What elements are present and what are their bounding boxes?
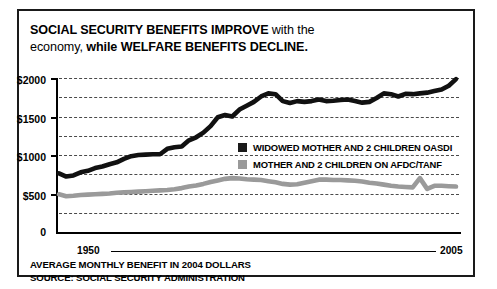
caption-line-2: SOURCE: SOCIAL SECURITY ADMINISTRATION	[30, 272, 251, 285]
y-tick-label-1500: $1500	[17, 113, 46, 125]
title-line-2-bold: while WELFARE BENEFITS DECLINE.	[83, 40, 308, 54]
legend-swatch-oasdi	[238, 143, 247, 152]
chart-frame: SOCIAL SECURITY BENEFITS IMPROVE with th…	[17, 9, 475, 277]
line-afdc-tanf	[59, 178, 456, 196]
title-line-2-regular: economy,	[30, 40, 83, 54]
caption-line-1: AVERAGE MONTHLY BENEFIT IN 2004 DOLLARS	[30, 259, 251, 272]
y-tick-label-500: $500	[23, 190, 46, 202]
y-tick-label-1000: $1000	[17, 151, 46, 163]
y-tick-label-2000: $2000	[17, 74, 46, 86]
title-line-2: economy, while WELFARE BENEFITS DECLINE.	[30, 39, 450, 56]
legend-label-oasdi: WIDOWED MOTHER AND 2 CHILDREN OASDI	[253, 142, 452, 153]
y-tick-label-0: 0	[40, 226, 46, 238]
legend-item-afdc: MOTHER AND 2 CHILDREN ON AFDC/TANF	[238, 156, 490, 173]
x-axis-label-end: 2005	[440, 245, 463, 256]
chart-caption: AVERAGE MONTHLY BENEFIT IN 2004 DOLLARS …	[30, 259, 251, 284]
title-line-1-bold: SOCIAL SECURITY BENEFITS IMPROVE	[30, 23, 268, 37]
legend-item-oasdi: WIDOWED MOTHER AND 2 CHILDREN OASDI	[238, 139, 490, 156]
infographic-figure: SOCIAL SECURITY BENEFITS IMPROVE with th…	[0, 0, 497, 289]
legend-swatch-afdc	[238, 160, 247, 169]
x-axis-label-start: 1950	[77, 245, 100, 256]
title-line-1: SOCIAL SECURITY BENEFITS IMPROVE with th…	[30, 22, 450, 39]
x-axis-rule	[111, 251, 436, 252]
chart-title: SOCIAL SECURITY BENEFITS IMPROVE with th…	[30, 22, 450, 56]
chart-legend: WIDOWED MOTHER AND 2 CHILDREN OASDI MOTH…	[238, 139, 490, 173]
legend-label-afdc: MOTHER AND 2 CHILDREN ON AFDC/TANF	[253, 159, 442, 170]
title-line-1-regular: with the	[268, 23, 314, 37]
